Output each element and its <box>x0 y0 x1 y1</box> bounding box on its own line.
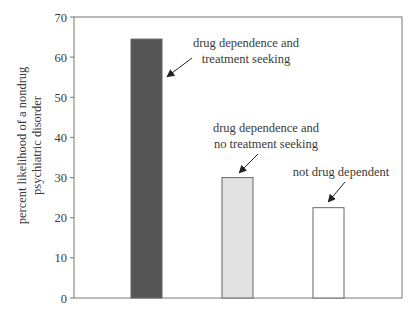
y-tick-label: 20 <box>55 211 68 225</box>
annotation-label: treatment seeking <box>202 52 291 66</box>
y-axis-title-line: percent likelihood of a nondrug <box>15 66 29 224</box>
annotation-label: not drug dependent <box>293 165 390 179</box>
bar-chart: percent likelihood of a nondrugpsychiatr… <box>0 0 412 313</box>
y-tick-label: 50 <box>55 91 68 105</box>
arrow-icon <box>168 58 192 76</box>
arrow-icon <box>240 154 258 172</box>
bar-3 <box>313 208 344 298</box>
annotation-label: no treatment seeking <box>214 137 319 151</box>
annotation-3: not drug dependent <box>293 165 390 201</box>
arrow-icon <box>329 182 345 201</box>
y-tick-label: 40 <box>55 131 68 145</box>
y-axis-title: percent likelihood of a nondrugpsychiatr… <box>15 66 44 224</box>
y-tick-label: 0 <box>61 292 67 306</box>
annotation-label: drug dependence and <box>193 36 300 50</box>
annotation-label: drug dependence and <box>213 121 320 135</box>
bar-1 <box>131 39 162 298</box>
annotation-1: drug dependence andtreatment seeking <box>168 36 300 76</box>
chart-canvas: percent likelihood of a nondrugpsychiatr… <box>0 0 412 313</box>
y-tick-label: 70 <box>55 11 68 25</box>
y-axis-ticks: 010203040506070 <box>55 11 75 306</box>
annotations: drug dependence andtreatment seekingdrug… <box>168 36 390 201</box>
y-tick-label: 60 <box>55 51 68 65</box>
bar-2 <box>222 178 253 298</box>
y-axis-title-line: psychiatric disorder <box>30 95 44 195</box>
y-tick-label: 30 <box>55 171 68 185</box>
y-tick-label: 10 <box>55 251 68 265</box>
